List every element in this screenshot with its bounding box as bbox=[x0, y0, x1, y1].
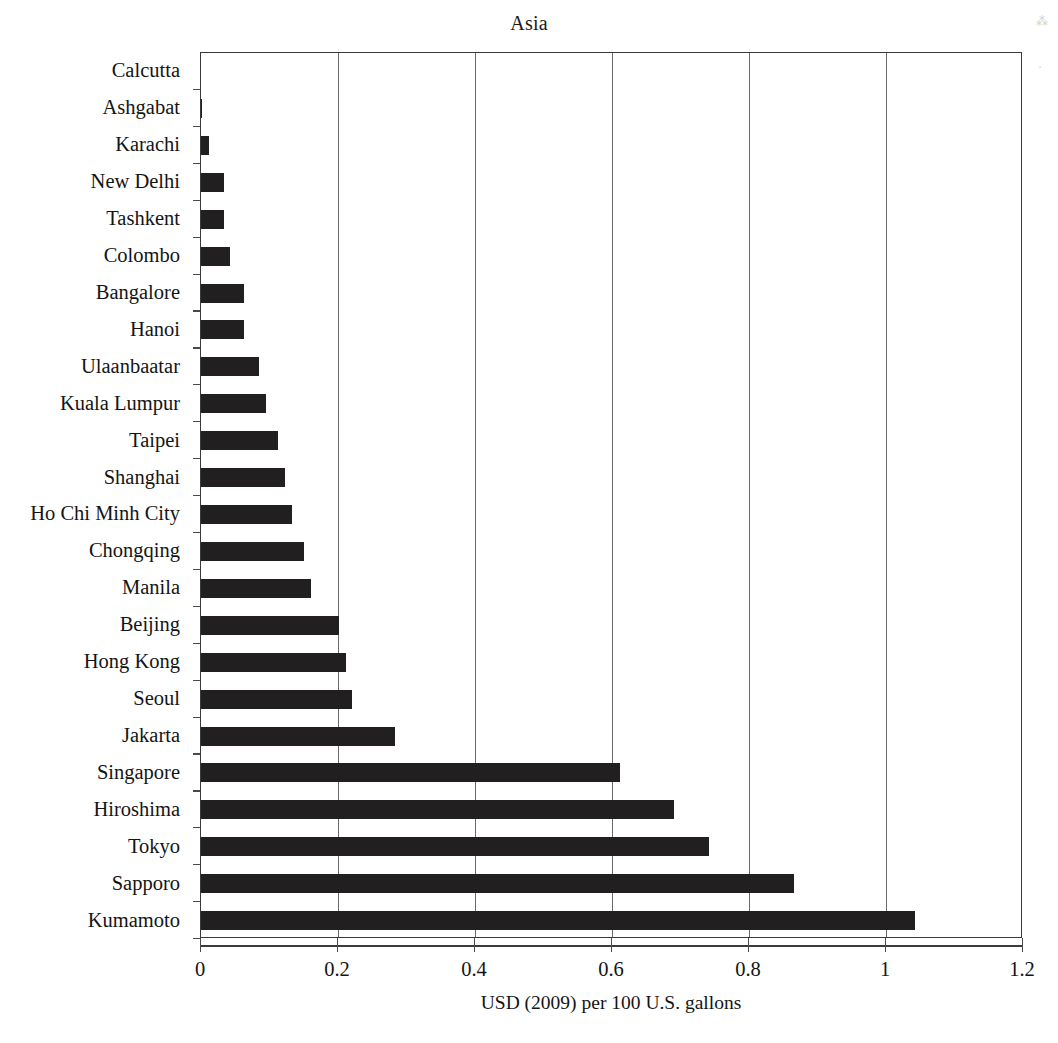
y-axis-label-kumamoto: Kumamoto bbox=[88, 909, 180, 931]
scan-artifact-mid: · bbox=[1038, 60, 1042, 75]
x-axis-tick-0.2 bbox=[337, 938, 338, 952]
y-axis-labels: CalcuttaAshgabatKarachiNew DelhiTashkent… bbox=[0, 52, 192, 938]
y-axis-label-seoul: Seoul bbox=[133, 687, 180, 709]
bar-row bbox=[201, 607, 1023, 644]
y-axis-label-beijing: Beijing bbox=[120, 613, 180, 635]
y-axis-label-tashkent: Tashkent bbox=[106, 207, 180, 229]
x-axis-tick-label-0.6: 0.6 bbox=[598, 958, 624, 981]
bar-new-delhi[interactable] bbox=[201, 173, 224, 192]
bar-row bbox=[201, 791, 1023, 828]
y-axis-label-tokyo: Tokyo bbox=[128, 835, 180, 857]
bar-row bbox=[201, 644, 1023, 681]
y-axis-label-ashgabat: Ashgabat bbox=[103, 96, 180, 118]
y-axis-label-hong-kong: Hong Kong bbox=[84, 650, 180, 672]
bar-row bbox=[201, 681, 1023, 718]
bar-kumamoto[interactable] bbox=[201, 911, 915, 930]
bar-row bbox=[201, 459, 1023, 496]
x-axis-tick-label-0.8: 0.8 bbox=[735, 958, 761, 981]
bar-kuala-lumpur[interactable] bbox=[201, 394, 266, 413]
bar-row bbox=[201, 238, 1023, 275]
y-axis-label-colombo: Colombo bbox=[104, 244, 180, 266]
bar-tokyo[interactable] bbox=[201, 837, 709, 856]
bar-series bbox=[201, 53, 1021, 937]
y-axis-label-kuala-lumpur: Kuala Lumpur bbox=[60, 392, 180, 414]
bar-row bbox=[201, 311, 1023, 348]
y-axis-label-jakarta: Jakarta bbox=[122, 724, 180, 746]
x-axis-title: USD (2009) per 100 U.S. gallons bbox=[200, 992, 1022, 1014]
bar-row bbox=[201, 53, 1023, 90]
bar-sapporo[interactable] bbox=[201, 874, 794, 893]
bar-row bbox=[201, 496, 1023, 533]
bar-row bbox=[201, 865, 1023, 902]
bar-row bbox=[201, 348, 1023, 385]
bar-hiroshima[interactable] bbox=[201, 800, 674, 819]
bar-taipei[interactable] bbox=[201, 431, 278, 450]
bar-chongqing[interactable] bbox=[201, 542, 304, 561]
y-axis-label-shanghai: Shanghai bbox=[104, 466, 180, 488]
y-axis-label-ulaanbaatar: Ulaanbaatar bbox=[81, 355, 180, 377]
plot-area bbox=[200, 52, 1022, 938]
x-axis-tick-1.2 bbox=[1022, 938, 1023, 952]
bar-row bbox=[201, 902, 1023, 939]
x-axis-tick-0.4 bbox=[474, 938, 475, 952]
bar-row bbox=[201, 90, 1023, 127]
bar-row bbox=[201, 164, 1023, 201]
bar-row bbox=[201, 201, 1023, 238]
bar-row bbox=[201, 754, 1023, 791]
y-axis-label-ho-chi-minh-city: Ho Chi Minh City bbox=[30, 502, 180, 524]
x-axis-tick-0.8 bbox=[748, 938, 749, 952]
bar-row bbox=[201, 385, 1023, 422]
bar-hanoi[interactable] bbox=[201, 320, 244, 339]
bar-row bbox=[201, 275, 1023, 312]
y-axis-label-sapporo: Sapporo bbox=[112, 872, 180, 894]
bar-seoul[interactable] bbox=[201, 690, 352, 709]
bar-ashgabat[interactable] bbox=[201, 99, 202, 118]
bar-ulaanbaatar[interactable] bbox=[201, 357, 259, 376]
bar-bangalore[interactable] bbox=[201, 284, 244, 303]
y-axis-label-taipei: Taipei bbox=[129, 429, 180, 451]
bar-row bbox=[201, 828, 1023, 865]
bar-colombo[interactable] bbox=[201, 247, 230, 266]
y-axis-label-karachi: Karachi bbox=[115, 133, 180, 155]
x-axis-tick-label-1.2: 1.2 bbox=[1009, 958, 1035, 981]
bar-jakarta[interactable] bbox=[201, 727, 395, 746]
bar-row bbox=[201, 570, 1023, 607]
y-axis-label-singapore: Singapore bbox=[97, 761, 180, 783]
bar-karachi[interactable] bbox=[201, 136, 209, 155]
y-axis-label-bangalore: Bangalore bbox=[96, 281, 180, 303]
bar-row bbox=[201, 533, 1023, 570]
y-axis-label-hiroshima: Hiroshima bbox=[93, 798, 180, 820]
x-axis-tick-label-0.4: 0.4 bbox=[461, 958, 487, 981]
x-axis-tick-label-0.2: 0.2 bbox=[324, 958, 350, 981]
bar-manila[interactable] bbox=[201, 579, 311, 598]
y-axis-label-calcutta: Calcutta bbox=[112, 59, 180, 81]
y-axis-label-chongqing: Chongqing bbox=[89, 539, 180, 561]
bar-tashkent[interactable] bbox=[201, 210, 224, 229]
bar-hong-kong[interactable] bbox=[201, 653, 346, 672]
x-axis-tick-label-1: 1 bbox=[880, 958, 890, 981]
bar-row bbox=[201, 422, 1023, 459]
x-axis-tick-label-0: 0 bbox=[195, 958, 205, 981]
bar-beijing[interactable] bbox=[201, 616, 339, 635]
bar-singapore[interactable] bbox=[201, 763, 620, 782]
y-axis-label-new-delhi: New Delhi bbox=[91, 170, 180, 192]
bar-row bbox=[201, 127, 1023, 164]
bar-row bbox=[201, 718, 1023, 755]
y-axis-label-hanoi: Hanoi bbox=[130, 318, 180, 340]
x-axis-tick-0.6 bbox=[611, 938, 612, 952]
bar-shanghai[interactable] bbox=[201, 468, 285, 487]
x-axis-tick-0 bbox=[200, 938, 201, 952]
y-axis-label-manila: Manila bbox=[122, 576, 180, 598]
bar-ho-chi-minh-city[interactable] bbox=[201, 505, 292, 524]
chart-figure: Asia CalcuttaAshgabatKarachiNew DelhiTas… bbox=[0, 0, 1058, 1043]
x-axis-tick-1 bbox=[885, 938, 886, 952]
chart-title: Asia bbox=[0, 12, 1058, 35]
